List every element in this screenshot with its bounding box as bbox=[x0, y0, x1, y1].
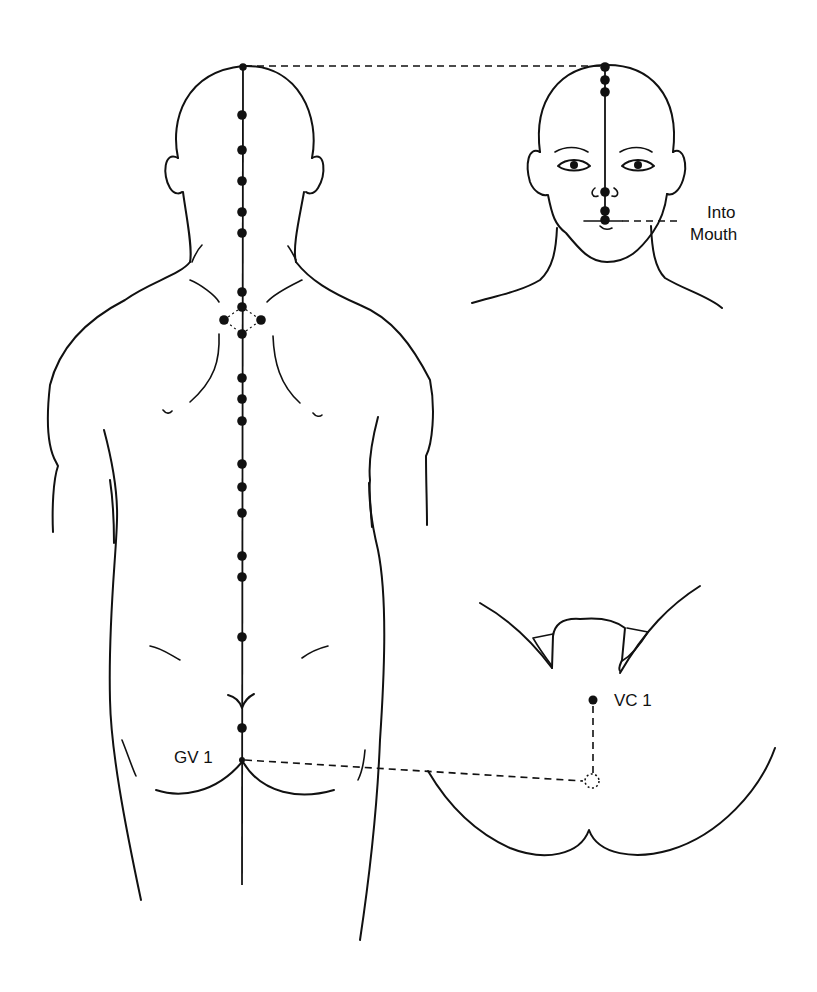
gv-acupoint bbox=[240, 64, 246, 70]
anus-marker-icon bbox=[585, 774, 599, 788]
gluteal-fold-right bbox=[243, 762, 334, 794]
meridian-direction-arrow-icon bbox=[228, 694, 254, 708]
thigh-left bbox=[480, 603, 552, 668]
back-torso-left bbox=[104, 430, 141, 900]
gv-acupoint bbox=[237, 329, 247, 339]
gv-acupoint bbox=[237, 572, 247, 582]
face-neck-left bbox=[472, 228, 557, 303]
face-jaw bbox=[548, 194, 667, 262]
back-view bbox=[48, 66, 433, 940]
gv-acupoint bbox=[237, 459, 247, 469]
back-right-shoulder-arm bbox=[296, 262, 433, 525]
buttocks-outline bbox=[428, 748, 775, 855]
gv-acupoint bbox=[237, 508, 247, 518]
perineum-view: VC 1 GV 1 bbox=[174, 586, 775, 855]
scapula-left-top bbox=[190, 280, 219, 302]
vc1-label: VC 1 bbox=[614, 691, 652, 710]
back-left-shoulder-arm bbox=[48, 262, 190, 532]
left-eyebrow bbox=[555, 148, 588, 153]
back-neck-left bbox=[183, 192, 191, 262]
face-right-ear bbox=[667, 151, 685, 195]
gv-acupoint bbox=[237, 482, 247, 492]
gv-acupoint bbox=[237, 723, 247, 733]
face-acupoint bbox=[600, 87, 610, 97]
gv-acupoint bbox=[237, 416, 247, 426]
side-acupoint bbox=[219, 315, 229, 325]
scapula-left-medial bbox=[190, 334, 219, 402]
side-acupoint bbox=[256, 315, 266, 325]
gv-acupoint bbox=[237, 632, 247, 642]
face-acupoint bbox=[600, 187, 610, 197]
face-acupoint bbox=[600, 206, 610, 216]
vc1-point bbox=[589, 696, 598, 705]
right-eyebrow bbox=[620, 148, 652, 153]
lumbar-crease-right bbox=[302, 646, 328, 658]
back-right-inner-arm bbox=[369, 483, 372, 527]
into-mouth-label-line2: Mouth bbox=[690, 225, 737, 244]
right-pupil bbox=[634, 161, 642, 169]
genital-left-triangle bbox=[533, 634, 553, 666]
gv1-point bbox=[239, 757, 245, 763]
into-mouth-label-line1: Into bbox=[707, 203, 735, 222]
gv-acupoint bbox=[237, 110, 247, 120]
scapula-right-top bbox=[267, 280, 302, 302]
neck-crease-left bbox=[192, 245, 202, 262]
governing-vessel-diagram: Into Mouth VC 1 GV 1 bbox=[0, 0, 817, 992]
scapula-left-tip bbox=[163, 410, 172, 413]
back-torso-right bbox=[360, 417, 384, 940]
gv-acupoint bbox=[237, 228, 247, 238]
diagram-canvas: Into Mouth VC 1 GV 1 bbox=[0, 0, 817, 992]
back-neck-right bbox=[295, 192, 304, 262]
gv-acupoint bbox=[237, 207, 247, 217]
back-right-ear bbox=[306, 156, 323, 193]
lower-lip bbox=[600, 226, 612, 229]
back-left-inner-arm bbox=[110, 480, 114, 543]
gv1-label: GV 1 bbox=[174, 748, 213, 767]
scapula-right-medial bbox=[273, 336, 300, 403]
gv-acupoint bbox=[237, 145, 247, 155]
gv-acupoint bbox=[237, 373, 247, 383]
genital-right-triangle bbox=[622, 628, 648, 661]
gv-acupoint bbox=[237, 176, 247, 186]
hip-mark-right bbox=[358, 750, 365, 780]
lumbar-crease-left bbox=[150, 646, 180, 660]
gv-acupoint bbox=[237, 287, 247, 297]
genital-outline bbox=[552, 618, 625, 671]
gv-acupoint bbox=[237, 551, 247, 561]
gv1-connector-line bbox=[245, 760, 583, 781]
face-acupoint bbox=[600, 75, 610, 85]
gv-acupoint bbox=[237, 394, 247, 404]
hip-mark-left bbox=[122, 740, 136, 776]
face-left-ear bbox=[528, 151, 547, 195]
face-acupoint bbox=[600, 215, 610, 225]
left-pupil bbox=[570, 161, 578, 169]
face-acupoint bbox=[600, 62, 610, 72]
gv-acupoint bbox=[237, 302, 247, 312]
back-left-ear bbox=[165, 156, 182, 193]
scapula-right-tip bbox=[313, 413, 322, 416]
